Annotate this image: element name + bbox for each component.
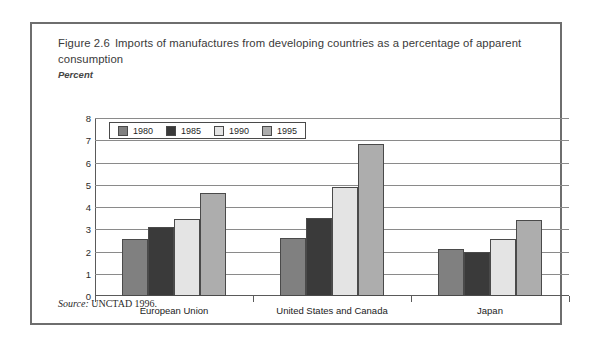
y-axis-tick-label: 4 bbox=[69, 202, 91, 213]
bar-european-union-1990 bbox=[174, 219, 200, 296]
legend-swatch-icon bbox=[118, 126, 128, 136]
x-axis-category-label: United States and Canada bbox=[276, 305, 387, 316]
x-axis-tick bbox=[95, 296, 96, 302]
x-axis-category-label: European Union bbox=[140, 305, 209, 316]
legend-item-1980: 1980 bbox=[118, 126, 153, 136]
legend-label: 1995 bbox=[277, 126, 297, 136]
legend-item-1995: 1995 bbox=[262, 126, 297, 136]
x-axis-tick bbox=[411, 296, 412, 302]
bar-european-union-1985 bbox=[148, 227, 174, 296]
bar-japan-1980 bbox=[438, 249, 464, 296]
bar-japan-1990 bbox=[490, 239, 516, 296]
figure-title-text: Imports of manufactures from developing … bbox=[58, 37, 521, 65]
x-axis-tick bbox=[253, 296, 254, 302]
bar-united-states-and-canada-1985 bbox=[306, 218, 332, 296]
bar-japan-1995 bbox=[516, 220, 542, 296]
y-axis-tick-label: 1 bbox=[69, 268, 91, 279]
y-axis-tick-label: 7 bbox=[69, 135, 91, 146]
figure-frame: Figure 2.6Imports of manufactures from d… bbox=[30, 22, 562, 325]
legend-item-1990: 1990 bbox=[214, 126, 249, 136]
figure-number: Figure 2.6 bbox=[58, 37, 110, 49]
x-axis-tick bbox=[569, 296, 570, 302]
legend-swatch-icon bbox=[262, 126, 272, 136]
y-axis-tick-labels: 012345678 bbox=[69, 118, 91, 296]
bar-united-states-and-canada-1980 bbox=[280, 238, 306, 296]
legend-swatch-icon bbox=[166, 126, 176, 136]
plot-area bbox=[95, 118, 569, 296]
y-axis-tick-label: 2 bbox=[69, 246, 91, 257]
figure-title: Figure 2.6Imports of manufactures from d… bbox=[58, 36, 533, 67]
bar-european-union-1995 bbox=[200, 193, 226, 296]
bar-group bbox=[253, 118, 411, 296]
y-axis-tick-label: 3 bbox=[69, 224, 91, 235]
bar-european-union-1980 bbox=[122, 239, 148, 296]
bar-united-states-and-canada-1990 bbox=[332, 187, 358, 296]
x-axis-category-label: Japan bbox=[477, 305, 503, 316]
y-axis-tick-label: 5 bbox=[69, 179, 91, 190]
source-keyword: Source: bbox=[58, 298, 89, 309]
bar-japan-1985 bbox=[464, 252, 490, 297]
bar-group bbox=[95, 118, 253, 296]
legend-item-1985: 1985 bbox=[166, 126, 201, 136]
chart-legend: 1980198519901995 bbox=[109, 122, 306, 139]
bar-united-states-and-canada-1995 bbox=[358, 144, 384, 296]
legend-swatch-icon bbox=[214, 126, 224, 136]
legend-label: 1990 bbox=[229, 126, 249, 136]
y-axis-unit-label: Percent bbox=[58, 69, 93, 80]
y-axis-tick-label: 6 bbox=[69, 157, 91, 168]
legend-label: 1980 bbox=[133, 126, 153, 136]
bar-group bbox=[411, 118, 569, 296]
y-axis-tick-label: 8 bbox=[69, 113, 91, 124]
legend-label: 1985 bbox=[181, 126, 201, 136]
